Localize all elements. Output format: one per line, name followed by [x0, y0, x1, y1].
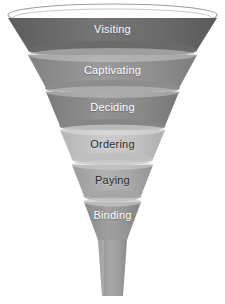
- funnel-graphic: [0, 0, 225, 304]
- funnel-spout: [98, 240, 127, 296]
- funnel-segment-paying[interactable]: [72, 160, 154, 202]
- funnel-segment-ordering[interactable]: [60, 125, 166, 166]
- funnel-segment-binding[interactable]: [84, 198, 142, 243]
- funnel-diagram: Visiting Captivating Deciding Ordering P…: [0, 0, 225, 304]
